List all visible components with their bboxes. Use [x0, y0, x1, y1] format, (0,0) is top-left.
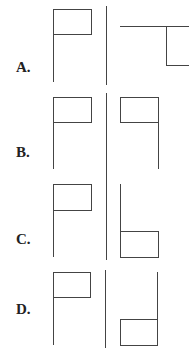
option-c-left-flag [54, 184, 92, 257]
option-b-left-flag [54, 97, 92, 169]
option-d-figure [54, 270, 158, 348]
option-a-left-flag [54, 9, 92, 82]
option-d-left-flag [54, 272, 91, 345]
option-b-right-flag [121, 97, 159, 169]
figure-diagram [0, 0, 189, 353]
option-c-right-flag [121, 184, 159, 258]
option-a-figure [54, 6, 190, 85]
option-d-right-flag [121, 272, 158, 346]
option-a-right-flag [120, 26, 189, 66]
option-b-figure [54, 93, 159, 173]
option-c-figure [54, 170, 159, 260]
